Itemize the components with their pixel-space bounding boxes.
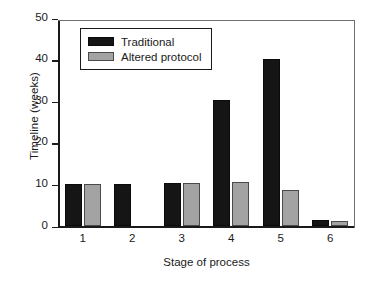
y-tick: 50 [52, 19, 58, 21]
x-tick-label: 5 [278, 232, 284, 244]
y-tick-label: 40 [35, 52, 48, 64]
legend-item-traditional: Traditional [88, 34, 202, 49]
bar-traditional-stage-4 [213, 100, 230, 227]
y-tick: 30 [52, 102, 58, 104]
y-tick: 40 [52, 60, 58, 62]
y-tick: 0 [52, 227, 58, 229]
bar-altered-stage-1 [84, 184, 101, 226]
y-tick-label: 0 [42, 219, 48, 231]
legend-label-altered-protocol: Altered protocol [121, 51, 202, 63]
x-axis-title: Stage of process [58, 256, 355, 268]
bar-traditional-stage-2 [114, 184, 131, 227]
y-tick-label: 50 [35, 11, 48, 23]
legend-label-traditional: Traditional [121, 36, 174, 48]
bar-altered-stage-3 [183, 183, 200, 226]
y-tick: 20 [52, 143, 58, 145]
chart-legend: Traditional Altered protocol [80, 28, 212, 70]
y-tick-label: 30 [35, 94, 48, 106]
y-tick: 10 [52, 185, 58, 187]
y-tick-label: 10 [35, 177, 48, 189]
y-axis-line [58, 20, 60, 228]
x-tick-label: 4 [228, 232, 234, 244]
x-tick-label: 1 [80, 232, 86, 244]
x-tick-label: 3 [179, 232, 185, 244]
legend-swatch-traditional [88, 37, 114, 46]
x-tick-label: 6 [327, 232, 333, 244]
plot-right-border [354, 20, 355, 228]
bar-traditional-stage-5 [263, 59, 280, 227]
legend-item-altered-protocol: Altered protocol [88, 49, 202, 64]
bar-chart-figure: Timeline (weeks) 01020304050 123456 Trad… [0, 0, 379, 283]
bar-traditional-stage-6 [312, 220, 329, 226]
plot-top-border [58, 20, 355, 21]
bar-altered-stage-6 [331, 221, 348, 227]
legend-swatch-altered-protocol [88, 52, 114, 61]
x-axis-line [58, 226, 355, 228]
x-tick-label: 2 [129, 232, 135, 244]
bar-traditional-stage-3 [164, 183, 181, 226]
plot-area: 01020304050 123456 Traditional Altered p… [58, 20, 355, 228]
bar-altered-stage-5 [282, 190, 299, 226]
y-tick-label: 20 [35, 135, 48, 147]
bar-traditional-stage-1 [65, 184, 82, 226]
bar-altered-stage-4 [232, 182, 249, 226]
